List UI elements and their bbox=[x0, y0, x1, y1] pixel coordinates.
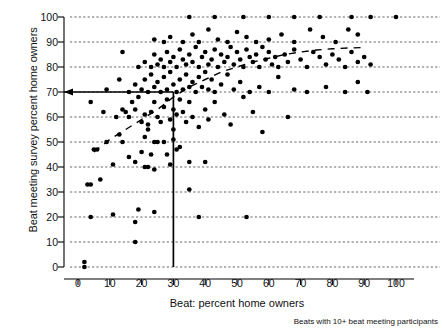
data-point bbox=[152, 85, 157, 90]
data-point bbox=[324, 62, 329, 67]
data-point bbox=[270, 62, 275, 67]
data-point bbox=[181, 87, 186, 92]
x-axis-tick-label: 100 bbox=[376, 278, 416, 289]
reference-arrowhead-icon bbox=[64, 89, 73, 96]
data-point bbox=[196, 215, 201, 220]
data-point bbox=[365, 90, 370, 95]
data-point bbox=[212, 15, 217, 20]
scatter-plot-figure: 0102030405060708090100 01020304050607080… bbox=[0, 0, 442, 336]
data-point bbox=[362, 55, 367, 60]
data-point bbox=[311, 50, 316, 55]
data-point bbox=[152, 37, 157, 42]
data-point bbox=[193, 45, 198, 50]
data-point bbox=[244, 35, 249, 40]
data-point bbox=[155, 62, 160, 67]
data-point bbox=[177, 77, 182, 82]
data-point bbox=[104, 140, 109, 145]
data-point bbox=[298, 57, 303, 62]
data-point bbox=[266, 50, 271, 55]
data-point bbox=[206, 62, 211, 67]
data-point bbox=[276, 65, 281, 70]
data-point bbox=[333, 40, 338, 45]
data-point bbox=[324, 85, 329, 90]
data-point bbox=[136, 95, 141, 100]
data-point bbox=[241, 15, 246, 20]
data-point bbox=[187, 85, 192, 90]
data-point bbox=[168, 117, 173, 122]
data-point bbox=[152, 167, 157, 172]
data-point bbox=[190, 60, 195, 65]
data-point bbox=[235, 50, 240, 55]
data-point bbox=[117, 132, 122, 137]
data-point bbox=[82, 260, 87, 265]
data-point bbox=[142, 112, 147, 117]
data-point bbox=[273, 55, 278, 60]
data-point bbox=[149, 72, 154, 77]
figure-caption: Beats with 10+ beat meeting participants bbox=[294, 317, 438, 326]
data-point bbox=[146, 165, 151, 170]
data-point bbox=[149, 110, 154, 115]
data-point bbox=[177, 47, 182, 52]
data-point bbox=[130, 100, 135, 105]
data-point bbox=[149, 65, 154, 70]
data-point bbox=[394, 15, 399, 20]
data-point bbox=[158, 57, 163, 62]
data-point bbox=[235, 30, 240, 35]
data-point bbox=[196, 75, 201, 80]
data-point bbox=[168, 35, 173, 40]
lowess-trend-line bbox=[94, 48, 364, 153]
data-point bbox=[266, 90, 271, 95]
data-point bbox=[187, 15, 192, 20]
data-point bbox=[343, 90, 348, 95]
data-point bbox=[196, 65, 201, 70]
data-point bbox=[209, 57, 214, 62]
data-point bbox=[247, 55, 252, 60]
data-point bbox=[165, 87, 170, 92]
data-point bbox=[254, 52, 259, 57]
data-point bbox=[212, 100, 217, 105]
data-point bbox=[260, 45, 265, 50]
data-point bbox=[152, 52, 157, 57]
data-point bbox=[225, 55, 230, 60]
data-point bbox=[238, 80, 243, 85]
data-point bbox=[292, 47, 297, 52]
data-point bbox=[162, 40, 167, 45]
data-point bbox=[88, 215, 93, 220]
data-point bbox=[238, 57, 243, 62]
data-point bbox=[181, 110, 186, 115]
data-point bbox=[308, 27, 313, 32]
data-point bbox=[292, 40, 297, 45]
data-point bbox=[168, 70, 173, 75]
data-point bbox=[196, 125, 201, 130]
data-point bbox=[206, 87, 211, 92]
data-point bbox=[187, 187, 192, 192]
data-point bbox=[330, 52, 335, 57]
data-point bbox=[184, 72, 189, 77]
data-point bbox=[82, 265, 87, 270]
data-point bbox=[158, 120, 163, 125]
data-point bbox=[349, 50, 354, 55]
data-point bbox=[155, 80, 160, 85]
data-point bbox=[187, 100, 192, 105]
data-point bbox=[123, 110, 128, 115]
data-point bbox=[190, 80, 195, 85]
data-point bbox=[219, 52, 224, 57]
data-point bbox=[355, 32, 360, 37]
data-point bbox=[317, 15, 322, 20]
data-point bbox=[120, 50, 125, 55]
data-point bbox=[111, 212, 116, 217]
x-axis-tick-labels: 0102030405060708090100 bbox=[0, 278, 442, 294]
data-point bbox=[212, 47, 217, 52]
data-point bbox=[228, 45, 233, 50]
data-point bbox=[317, 55, 322, 60]
data-point bbox=[193, 90, 198, 95]
data-point bbox=[203, 160, 208, 165]
data-point bbox=[171, 82, 176, 87]
data-point bbox=[181, 40, 186, 45]
data-point bbox=[225, 72, 230, 77]
data-point bbox=[257, 85, 262, 90]
data-point bbox=[171, 55, 176, 60]
data-point bbox=[254, 40, 259, 45]
data-point bbox=[216, 37, 221, 42]
data-point bbox=[139, 150, 144, 155]
